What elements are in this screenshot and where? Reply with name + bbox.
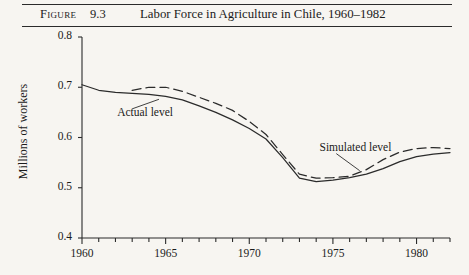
chart-plot-area: Millions of workers 0.80.70.60.50.419601…: [0, 28, 469, 275]
header-rule-top: [22, 4, 452, 5]
header-text-line: Figure 9.3 Labor Force in Agriculture in…: [22, 7, 452, 25]
annotation-leader-line: [336, 154, 359, 171]
figure-label: Figure: [40, 7, 76, 22]
figure-number: 9.3: [90, 7, 106, 22]
annotation-leader-line: [132, 99, 159, 109]
figure-title: Labor Force in Agriculture in Chile, 196…: [140, 7, 386, 22]
chart-svg: [0, 28, 469, 275]
figure-container: Figure 9.3 Labor Force in Agriculture in…: [0, 0, 469, 275]
series-line-actual-level: [82, 85, 450, 182]
figure-header: Figure 9.3 Labor Force in Agriculture in…: [22, 4, 452, 28]
series-line-simulated-level: [132, 87, 450, 178]
header-rule-bottom: [22, 26, 452, 27]
